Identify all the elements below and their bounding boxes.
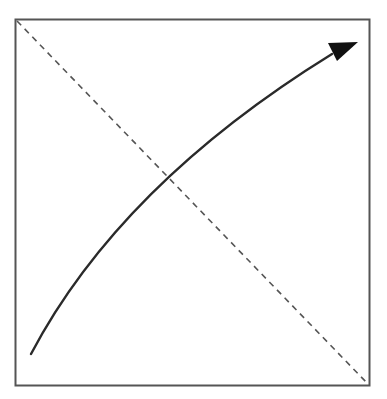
arrowhead-icon	[328, 42, 358, 61]
diagram-canvas	[0, 0, 387, 399]
curved-arrow-shaft	[31, 54, 332, 354]
dashed-diagonal	[17, 21, 368, 384]
